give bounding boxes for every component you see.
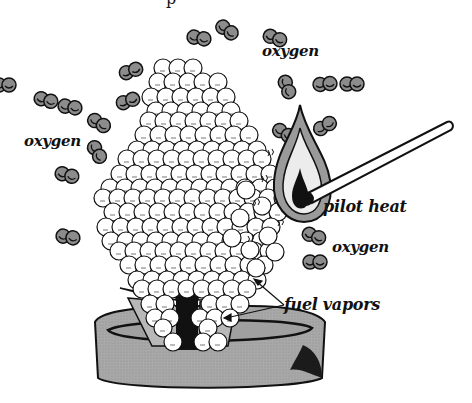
fuel-vapor-sphere [223, 229, 241, 247]
fuel-vapor-sphere [259, 227, 277, 245]
oxygen-molecule-icon [54, 165, 81, 185]
fuel-vapor-sphere [266, 243, 284, 261]
oxygen-molecule-icon [311, 114, 339, 138]
oxygen-molecule-icon [85, 111, 113, 135]
oxygen-molecule-icon [186, 29, 212, 47]
label-pilot-heat: pilot heat [323, 197, 407, 216]
fuel-vapor-sphere [231, 209, 249, 227]
label-oxygen-bottom-right: oxygen [332, 238, 389, 256]
fuel-vapor-sphere [209, 333, 227, 351]
label-oxygen-top-right: oxygen [262, 42, 319, 60]
oxygen-molecule-icon [57, 98, 83, 116]
oxygen-molecule-icon [300, 225, 327, 246]
oxygen-molecule-icon [303, 255, 327, 269]
title-fragment: p [166, 0, 176, 8]
oxygen-molecule-icon [85, 138, 109, 166]
oxygen-molecule-icon [117, 60, 144, 81]
oxygen-molecule-icon [312, 76, 337, 92]
fuel-vapor-sphere [241, 241, 259, 259]
oxygen-molecule-icon [276, 73, 297, 100]
oxygen-molecule-icon [114, 90, 141, 111]
fire-triangle-illustration: p oxygen oxygen pilot heat oxygen fuel v… [0, 0, 472, 403]
fuel-vapor-sphere [237, 181, 255, 199]
label-fuel-vapors: fuel vapors [284, 295, 380, 314]
fuel-vapor-sphere [253, 197, 271, 215]
label-oxygen-left: oxygen [24, 132, 81, 150]
fuel-vapor-sphere [247, 259, 265, 277]
oxygen-molecule-icon [0, 78, 16, 92]
oxygen-molecule-icon [340, 77, 364, 91]
oxygen-molecule-icon [33, 90, 60, 110]
oxygen-molecule-icon [55, 228, 81, 246]
fuel-vapor-sphere [164, 333, 182, 351]
oxygen-molecule-icon [213, 17, 241, 42]
